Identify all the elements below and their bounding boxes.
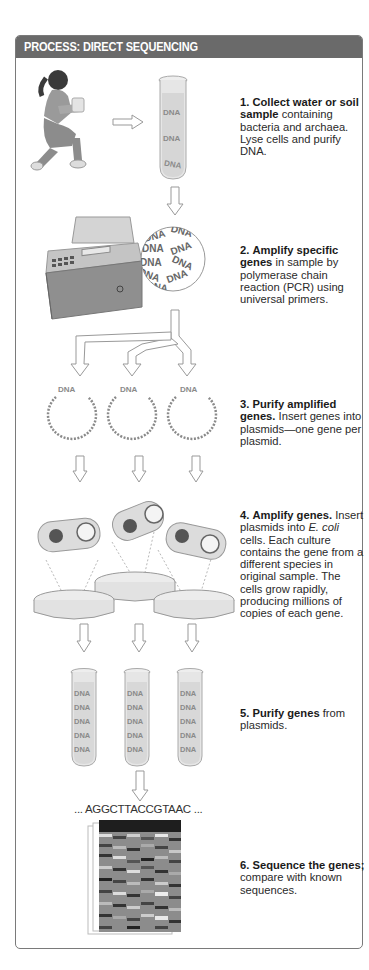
test-tube-icon: DNA DNA DNA DNA DNA <box>123 668 151 768</box>
svg-text:DNA: DNA <box>180 745 197 754</box>
step-2-number: 2. <box>240 244 249 256</box>
step-5-number: 5. <box>240 707 249 719</box>
svg-text:DNA: DNA <box>180 703 197 712</box>
svg-text:DNA: DNA <box>163 134 181 143</box>
arrow-down-icon <box>188 455 204 483</box>
step-4-organism: E. coli <box>308 521 338 533</box>
svg-text:DNA: DNA <box>127 717 144 726</box>
plasmid-icon: DNA <box>102 385 162 447</box>
branching-arrows-icon <box>60 310 200 382</box>
step-4-title: Amplify genes. <box>252 509 332 521</box>
step-5-description: 5. Purify genes from plasmids. <box>240 707 365 732</box>
sequencing-gel-icon <box>88 820 184 936</box>
step-5-title: Purify genes <box>252 707 319 719</box>
panel-header: PROCESS: DIRECT SEQUENCING <box>16 36 362 58</box>
arrow-down-icon <box>131 455 147 483</box>
svg-text:DNA: DNA <box>74 689 91 698</box>
kneeling-person-icon <box>28 68 90 173</box>
plasmid-icon: DNA <box>42 385 102 447</box>
pcr-machine-icon <box>38 215 148 320</box>
svg-text:DNA: DNA <box>127 731 144 740</box>
test-tube-icon: DNA DNA DNA DNA DNA <box>176 668 204 768</box>
svg-text:DNA: DNA <box>74 745 91 754</box>
svg-text:DNA: DNA <box>120 385 138 394</box>
arrow-down-icon <box>166 186 184 216</box>
svg-text:DNA: DNA <box>163 108 181 117</box>
test-tube-icon: DNA DNA DNA <box>158 75 188 180</box>
dna-magnifier-icon: DNA DNA DNA DNA DNA DNA DNA DNA DNA <box>140 226 206 292</box>
dna-sequence: ... AGGCTTACCGTAAC ... <box>74 803 202 815</box>
svg-text:DNA: DNA <box>58 385 76 394</box>
step-6-body: compare with known sequences. <box>240 871 342 895</box>
step-6-title: Sequence the genes; <box>252 859 364 871</box>
arrow-right-icon <box>112 114 144 130</box>
arrow-down-icon <box>131 770 149 802</box>
ecoli-petri-scene <box>34 490 234 630</box>
svg-text:DNA: DNA <box>74 731 91 740</box>
step-1-number: 1. <box>240 96 249 108</box>
step-4-description: 4. Amplify genes. Insert plasmids into E… <box>240 509 365 620</box>
svg-text:DNA: DNA <box>74 703 91 712</box>
panel-title: PROCESS: DIRECT SEQUENCING <box>24 36 198 58</box>
step-3-description: 3. Purify amplified genes. Insert genes … <box>240 398 365 447</box>
arrow-down-icon <box>76 623 92 653</box>
svg-text:DNA: DNA <box>74 717 91 726</box>
step-1-description: 1. Collect water or soil sample containi… <box>240 96 365 157</box>
svg-text:DNA: DNA <box>180 385 198 394</box>
arrow-down-icon <box>131 623 147 653</box>
svg-text:DNA: DNA <box>180 717 197 726</box>
step-4-body-b: cells. Each culture contains the gene fr… <box>240 534 363 620</box>
svg-text:DNA: DNA <box>180 731 197 740</box>
step-6-number: 6. <box>240 859 249 871</box>
step-3-number: 3. <box>240 398 249 410</box>
plasmid-icon: DNA <box>162 385 222 447</box>
ecoli-cell-icon <box>37 497 229 562</box>
arrow-down-icon <box>72 455 88 483</box>
arrow-down-icon <box>184 623 200 653</box>
step-2-description: 2. Amplify specific genes in sample by p… <box>240 244 365 305</box>
step-6-description: 6. Sequence the genes; compare with know… <box>240 859 365 896</box>
svg-text:DNA: DNA <box>127 745 144 754</box>
test-tube-icon: DNA DNA DNA DNA DNA <box>70 668 98 768</box>
svg-text:DNA: DNA <box>127 689 144 698</box>
svg-text:DNA: DNA <box>145 279 168 294</box>
svg-text:DNA: DNA <box>180 689 197 698</box>
svg-text:DNA: DNA <box>127 703 144 712</box>
svg-text:DNA: DNA <box>142 243 164 254</box>
step-4-number: 4. <box>240 509 249 521</box>
